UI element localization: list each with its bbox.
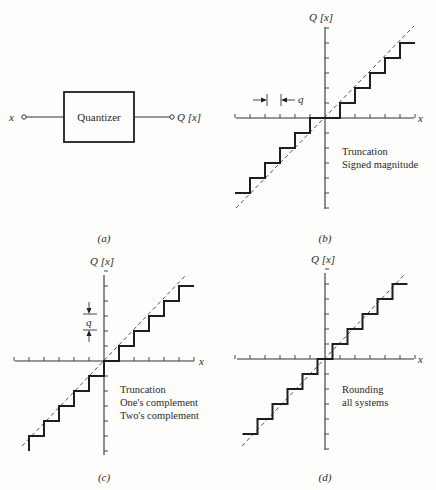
quantizer-figure: x Quantizer Q [x] (a) Q [x] x q Truncati… [0,0,436,490]
caption-c: (c) [98,471,111,484]
caption-b: (b) [319,232,332,245]
caption-d: (d) [319,471,332,484]
output-label: Q [x] [177,111,201,123]
annotation-line-1: Truncation [342,146,388,157]
x-axis-label: x [417,353,423,365]
quantizer-label: Quantizer [77,111,121,123]
arrow-left-icon [281,98,287,103]
panel-b-truncation-signed-magnitude: Q [x] x q Truncation Signed magnitude (b… [235,11,423,245]
panel-a-block-diagram: x Quantizer Q [x] (a) [8,92,201,245]
y-axis-label: Q [x] [309,11,333,23]
input-label: x [8,111,14,123]
arrow-down-icon [87,308,92,314]
output-port-icon [170,115,174,119]
quantizer-staircase [29,286,194,451]
step-width-dimension: q [253,93,304,106]
arrow-up-icon [87,330,92,336]
step-size-label: q [298,93,304,105]
annotation-line-3: Two's complement [120,410,199,421]
annotation-line-2: One's complement [120,397,198,408]
panel-c-truncation-complement: Q [x] x q Truncation One's complement Tw… [14,255,204,484]
caption-a: (a) [98,232,111,245]
step-height-dimension: q [83,302,97,342]
arrow-right-icon [261,98,267,103]
annotation-line-1: Truncation [120,384,166,395]
y-axis-label: Q [x] [311,253,335,265]
x-axis-label: x [417,112,423,124]
annotation-line-1: Rounding [342,384,384,395]
x-axis-label: x [198,355,204,367]
annotation-line-2: Signed magnitude [342,159,418,170]
y-axis-label: Q [x] [90,255,114,267]
input-port-icon [22,115,26,119]
panel-d-rounding: Q [x] x Rounding all systems (d) [235,253,423,484]
annotation-line-2: all systems [342,397,388,408]
step-size-label: q [86,316,92,328]
